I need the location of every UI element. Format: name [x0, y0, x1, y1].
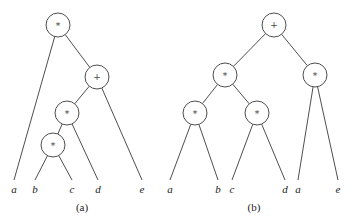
caption-tree-a: (a): [76, 201, 89, 214]
operator-node: +: [262, 13, 286, 37]
operator-node: *: [245, 101, 269, 125]
operator-node: *: [46, 13, 70, 37]
operator-node: *: [183, 101, 207, 125]
leaf-c: c: [70, 183, 75, 195]
leaf-d: d: [95, 183, 101, 195]
leaf-c: c: [230, 183, 235, 195]
edge-a_mul2-a_lb: [35, 156, 48, 180]
multiply-operator: *: [193, 109, 198, 119]
leaf-a: a: [167, 183, 173, 195]
multiply-operator: *: [313, 71, 318, 81]
edge-b_mulLR-b_lc: [232, 124, 253, 180]
operator-node: *: [213, 63, 237, 87]
caption-tree-b: (b): [248, 201, 261, 214]
operator-node: *: [55, 101, 79, 125]
edge-b_mulLL-b_la: [170, 124, 191, 180]
edge-a_mul2-a_lc: [59, 156, 72, 180]
multiply-operator: *: [255, 109, 260, 119]
edge-b_root-b_mulR: [282, 34, 308, 65]
leaf-a: a: [295, 183, 301, 195]
operator-node: *: [41, 133, 65, 157]
edge-b_mulLR-b_ld: [262, 124, 285, 180]
plus-operator: +: [270, 20, 278, 30]
edge-b_mulLL-b_lb: [199, 124, 218, 180]
leaf-b: b: [32, 183, 38, 195]
expression-trees-diagram: *+**+**** abcdeabcdae (a) (b): [0, 0, 352, 221]
multiply-operator: *: [65, 109, 70, 119]
edge-b_mulR-b_le: [318, 87, 338, 180]
multiply-operator: *: [223, 71, 228, 81]
leaf-d: d: [282, 183, 288, 195]
edge-a_root-a_plus: [65, 35, 90, 68]
leaf-a: a: [11, 183, 17, 195]
leaf-e: e: [336, 183, 341, 195]
edge-a_plus-a_le: [102, 88, 142, 180]
edge-a_mul1-a_mul2: [58, 124, 62, 134]
operator-node: *: [303, 63, 327, 87]
edge-a_root-a_la: [14, 37, 55, 180]
edge-a_mul1-a_ld: [72, 124, 98, 180]
edge-b_mulL-b_mulLR: [233, 84, 250, 104]
edge-b_root-b_mulL: [233, 34, 265, 67]
leaves-layer: abcdeabcdae: [11, 183, 340, 195]
multiply-operator: *: [51, 141, 56, 151]
edge-b_mulR-b_la2: [298, 87, 313, 180]
multiply-operator: *: [56, 21, 61, 31]
leaf-e: e: [140, 183, 145, 195]
edge-a_plus-a_mul1: [75, 86, 90, 104]
edge-b_mulL-b_mulLL: [202, 84, 217, 103]
plus-operator: +: [93, 72, 101, 82]
nodes-layer: *+**+****: [41, 13, 327, 157]
operator-node: +: [85, 65, 109, 89]
leaf-b: b: [215, 183, 221, 195]
